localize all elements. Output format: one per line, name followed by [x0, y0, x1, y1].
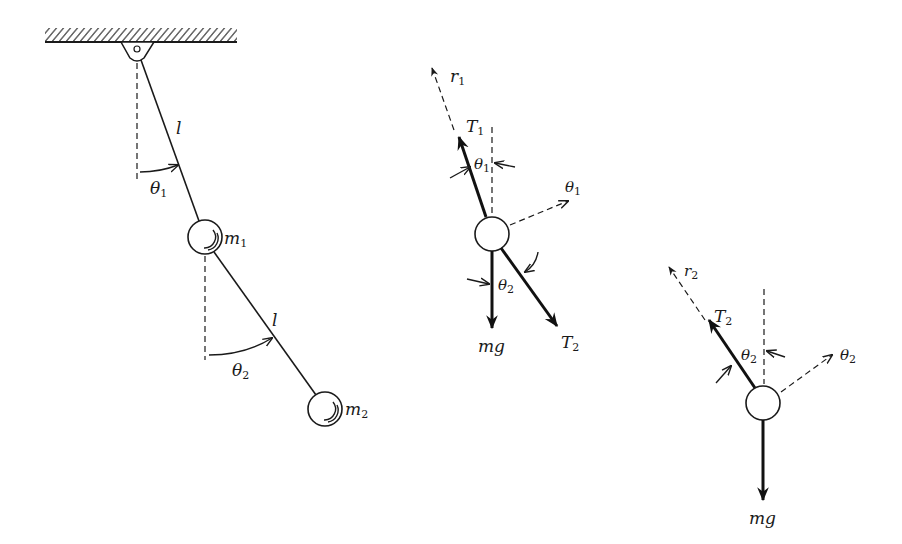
angle-arc-theta1 — [140, 165, 178, 172]
mass-1-body — [475, 217, 509, 251]
angle-indicator-fbd2-right — [767, 351, 785, 357]
t1-label: T1 — [466, 116, 484, 138]
mass-1 — [188, 220, 222, 254]
pendulum-system: l θ1 m1 l θ2 m2 — [45, 28, 368, 426]
angle-indicator-theta2-right — [525, 252, 538, 272]
angle-indicator-right — [495, 163, 515, 167]
angle-indicator-theta2-left — [467, 279, 489, 284]
angle-indicator-fbd2-left — [716, 366, 731, 383]
mg-fbd1-label: mg — [478, 336, 505, 356]
tangential-axis-theta1 — [510, 201, 568, 225]
double-pendulum-diagram: l θ1 m1 l θ2 m2 r1 T1 θ1 θ1 θ2 mg — [0, 0, 902, 544]
free-body-diagram-mass-1: r1 T1 θ1 θ1 θ2 mg T2 — [432, 66, 581, 356]
rod-1-length-label: l — [176, 118, 181, 138]
t2-fbd1-label: T2 — [561, 332, 579, 354]
theta2-fbd1-label: θ2 — [498, 276, 514, 296]
mass-2-body — [746, 386, 780, 420]
angle-arc-theta2 — [209, 338, 272, 355]
angle-indicator-left — [450, 167, 470, 178]
mass-1-label: m1 — [224, 228, 247, 250]
theta1-fbd-label: θ1 — [474, 155, 490, 175]
theta2-label: θ2 — [232, 360, 249, 382]
tangential-theta2-label: θ2 — [840, 346, 856, 366]
r1-label: r1 — [450, 66, 465, 88]
rod-2-length-label: l — [272, 310, 277, 330]
tangential-axis-theta2 — [781, 355, 832, 392]
theta2-fbd2-label: θ2 — [741, 346, 757, 366]
t2-fbd2-label: T2 — [714, 306, 732, 328]
pivot-mount — [121, 42, 154, 61]
tension-t1-arrow — [459, 137, 486, 217]
mg-fbd2-label: mg — [749, 508, 776, 528]
tangential-theta1-label: θ1 — [565, 178, 581, 198]
free-body-diagram-mass-2: r2 T2 θ2 θ2 mg — [669, 262, 856, 528]
r2-label: r2 — [684, 262, 698, 282]
mass-2-label: m2 — [345, 399, 368, 421]
mass-2 — [308, 392, 342, 426]
theta1-label: θ1 — [150, 178, 167, 200]
ceiling-support — [45, 28, 237, 42]
rod-2 — [214, 252, 316, 395]
